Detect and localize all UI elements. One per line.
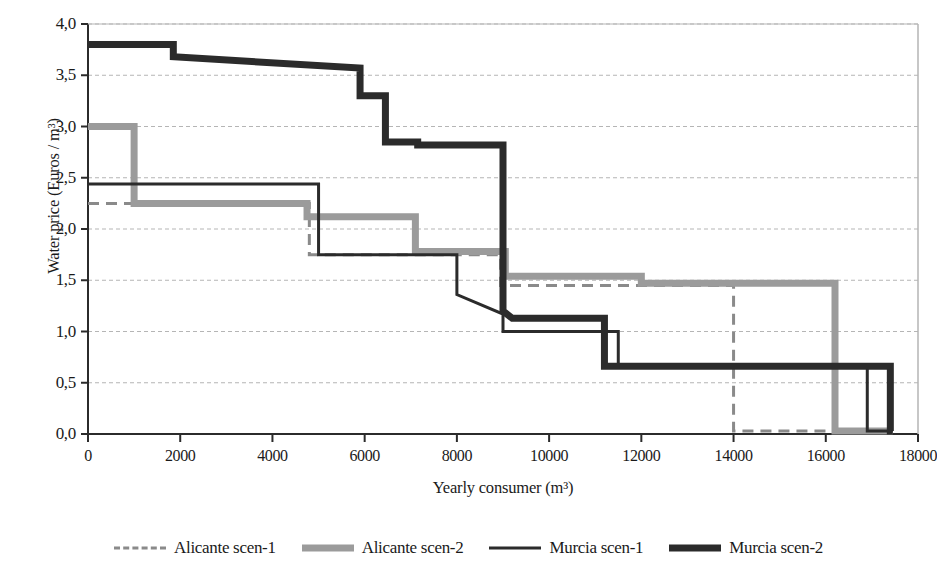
legend-label-murcia-scen-2: Murcia scen-2 (729, 538, 823, 558)
x-tick-label: 18000 (899, 448, 937, 464)
x-tick-label: 12000 (622, 448, 660, 464)
legend-item-alicante-scen-2[interactable]: Alicante scen-2 (302, 538, 464, 558)
legend-label-alicante-scen-1: Alicante scen-1 (174, 538, 276, 558)
x-tick-label: 16000 (807, 448, 845, 464)
x-tick-label: 8000 (442, 448, 472, 464)
data-series-group (88, 45, 893, 431)
water-price-chart: Water price (Euros / m³) 0,00,51,01,52,0… (0, 0, 937, 577)
series-line-alicante-scen-1 (88, 203, 893, 431)
x-tick-marks (88, 434, 918, 442)
x-tick-label: 0 (84, 448, 92, 464)
x-tick-label: 6000 (349, 448, 379, 464)
legend-item-alicante-scen-1[interactable]: Alicante scen-1 (114, 538, 276, 558)
x-tick-label: 4000 (257, 448, 287, 464)
series-line-alicante-scen-2 (88, 127, 893, 431)
series-line-murcia-scen-2 (88, 45, 893, 431)
x-tick-label: 14000 (715, 448, 753, 464)
chart-legend: Alicante scen-1 Alicante scen-2 Murcia s… (0, 538, 937, 558)
y-tick-marks (81, 24, 88, 434)
legend-item-murcia-scen-1[interactable]: Murcia scen-1 (489, 538, 643, 558)
legend-label-alicante-scen-2: Alicante scen-2 (362, 538, 464, 558)
x-tick-label: 10000 (530, 448, 568, 464)
legend-label-murcia-scen-1: Murcia scen-1 (549, 538, 643, 558)
legend-item-murcia-scen-2[interactable]: Murcia scen-2 (669, 538, 823, 558)
x-axis-title: Yearly consumer (m³) (88, 478, 918, 498)
series-line-murcia-scen-1 (88, 184, 893, 431)
x-tick-label: 2000 (165, 448, 195, 464)
